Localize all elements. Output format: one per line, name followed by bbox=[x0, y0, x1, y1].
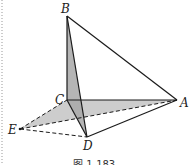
point-e-dot bbox=[19, 128, 22, 131]
edge-ed bbox=[20, 129, 87, 137]
figure-caption: 图 1-183 bbox=[73, 159, 115, 165]
label-d: D bbox=[82, 139, 93, 153]
geometry-figure: B C A D E 图 1-183 bbox=[0, 0, 191, 165]
edge-ba bbox=[67, 16, 177, 100]
label-b: B bbox=[60, 2, 70, 16]
label-c: C bbox=[55, 93, 64, 107]
label-e: E bbox=[7, 123, 17, 137]
label-a: A bbox=[179, 96, 189, 110]
